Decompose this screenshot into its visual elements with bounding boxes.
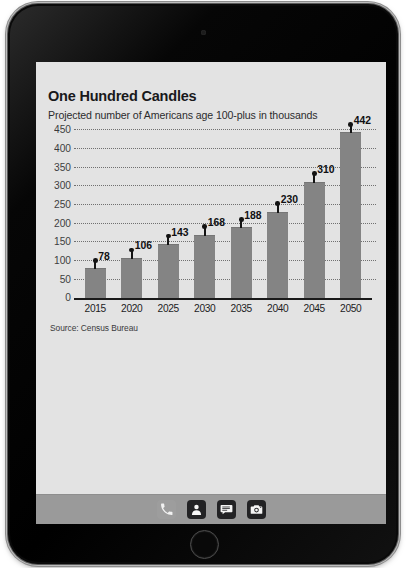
bar-value-marker: [167, 236, 169, 245]
y-axis-tick-label: 100: [54, 256, 71, 266]
bar-slot: 442: [333, 130, 370, 298]
tablet-device-frame: One Hundred Candles Projected number of …: [8, 4, 398, 564]
bar-value-marker: [313, 174, 315, 183]
messages-icon[interactable]: [217, 500, 236, 519]
screen-content: One Hundred Candles Projected number of …: [36, 62, 386, 494]
bar-value-marker: [240, 219, 242, 228]
bar-slot: 310: [296, 130, 333, 298]
chart-subtitle: Projected number of Americans age 100-pl…: [48, 109, 372, 122]
bar-value-label: 442: [354, 116, 371, 126]
chart-card: One Hundred Candles Projected number of …: [36, 62, 386, 494]
bar[interactable]: 168: [194, 235, 215, 299]
bar[interactable]: 78: [85, 268, 106, 298]
chart-plot-inner: 050100150200250300350400450 781061431681…: [74, 130, 372, 300]
y-axis-tick-label: 300: [54, 181, 71, 191]
x-axis-tick-label: 2040: [260, 301, 297, 316]
bar[interactable]: 188: [231, 227, 252, 298]
x-axis-tick-label: 2035: [223, 301, 260, 316]
tablet-screen: One Hundred Candles Projected number of …: [36, 62, 386, 524]
x-axis-tick-label: 2015: [77, 301, 114, 316]
bar-slot: 78: [77, 130, 114, 298]
bar[interactable]: 230: [267, 212, 288, 299]
phone-icon[interactable]: [157, 500, 176, 519]
contacts-icon[interactable]: [187, 500, 206, 519]
camera-icon[interactable]: [247, 500, 266, 519]
bar[interactable]: 442: [340, 132, 361, 298]
bar-value-marker: [94, 260, 96, 269]
bar[interactable]: 310: [304, 182, 325, 299]
y-axis-tick-label: 400: [54, 144, 71, 154]
bar-value-marker: [131, 250, 133, 259]
y-axis-tick-label: 0: [65, 293, 71, 303]
bar-slot: 143: [150, 130, 187, 298]
chart-title: One Hundred Candles: [48, 88, 372, 105]
x-axis-tick-label: 2050: [333, 301, 370, 316]
y-axis-tick-label: 250: [54, 200, 71, 210]
bar-slot: 106: [114, 130, 151, 298]
bar-value-label: 78: [98, 252, 110, 262]
front-camera-icon: [201, 30, 206, 35]
x-axis-tick-label: 2025: [150, 301, 187, 316]
y-axis-tick-label: 350: [54, 162, 71, 172]
bar[interactable]: 143: [158, 244, 179, 298]
y-axis-tick-label: 200: [54, 218, 71, 228]
bar[interactable]: 106: [121, 258, 142, 299]
x-axis-tick-label: 2020: [114, 301, 151, 316]
dock-bar: [36, 494, 386, 524]
bars-layer: 78106143168188230310442: [74, 130, 372, 298]
bar-value-marker: [350, 124, 352, 133]
bar-slot: 230: [260, 130, 297, 298]
x-axis-tick-label: 2045: [296, 301, 333, 316]
y-axis-tick-label: 450: [54, 125, 71, 135]
bar-value-marker: [277, 204, 279, 213]
x-axis-tick-label: 2030: [187, 301, 224, 316]
home-button[interactable]: [190, 530, 219, 559]
y-axis-tick-label: 150: [54, 237, 71, 247]
bar-slot: 168: [187, 130, 224, 298]
bar-value-marker: [204, 227, 206, 236]
chart-plot-area: 050100150200250300350400450 781061431681…: [48, 130, 372, 316]
y-axis-tick-label: 50: [60, 274, 71, 284]
x-axis-labels: 20152020202520302035204020452050: [74, 301, 372, 316]
bar-slot: 188: [223, 130, 260, 298]
chart-source-note: Source: Census Bureau: [50, 323, 372, 333]
